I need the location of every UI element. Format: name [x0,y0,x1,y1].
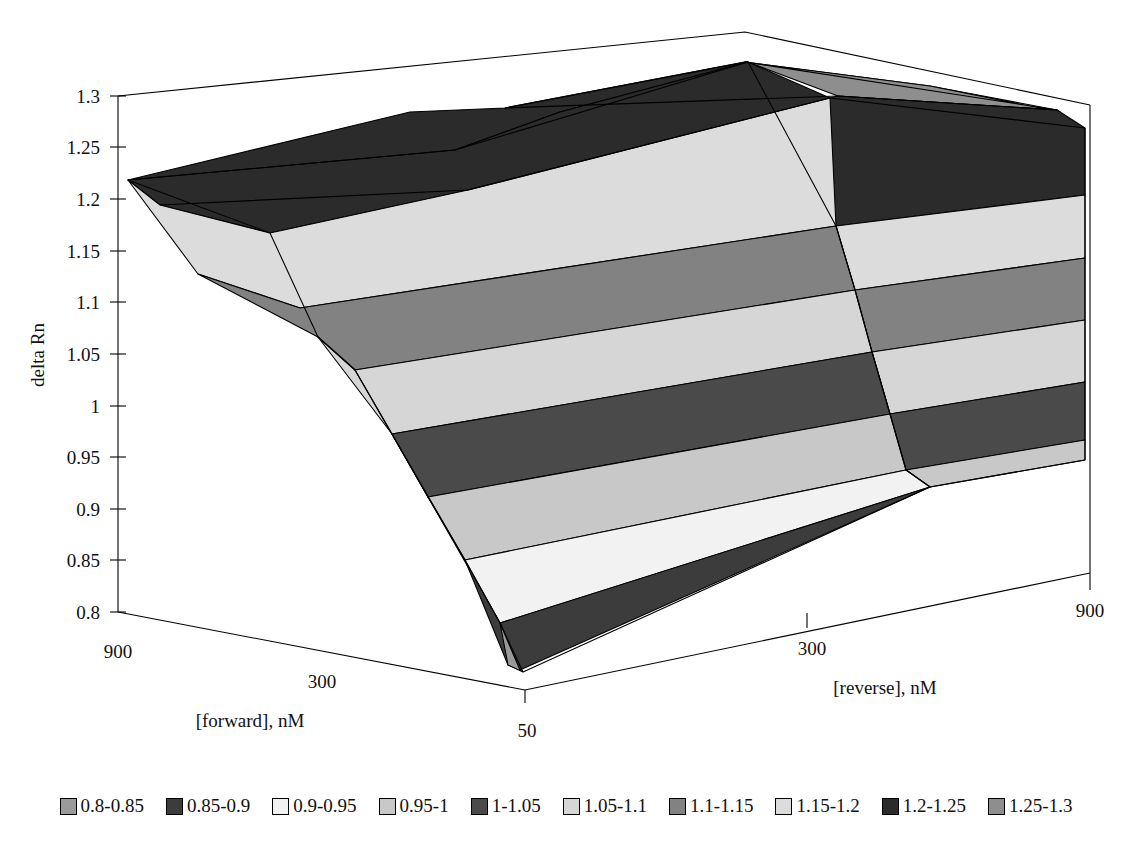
z-tick-label: 1.3 [76,86,100,107]
legend-swatch [471,798,488,815]
legend-item[interactable]: 1.2-1.25 [882,795,966,817]
legend-label: 1.1-1.15 [690,795,753,817]
z-tick-label: 0.95 [67,447,100,468]
z-axis-tick-labels: 1.3 1.25 1.2 1.15 1.1 1.05 1 0.95 0.9 0.… [67,86,100,623]
legend-swatch [272,798,289,815]
y-axis-title: [reverse], nM [833,677,937,698]
legend-swatch [563,798,580,815]
z-tick-label: 1 [91,396,101,417]
z-tick-label: 0.9 [76,499,100,520]
chart-legend: 0.8-0.85 0.85-0.9 0.9-0.95 0.95-1 1-1.05… [0,786,1132,826]
z-tick-label: 0.85 [67,550,100,571]
x-axis-title: [forward], nM [196,710,305,731]
legend-label: 1-1.05 [492,795,541,817]
legend-label: 0.8-0.85 [81,795,144,817]
surface-mesh [128,62,1085,672]
legend-item[interactable]: 1.25-1.3 [988,795,1072,817]
x-tick-label: 900 [104,641,133,662]
legend-item[interactable]: 0.9-0.95 [272,795,356,817]
legend-label: 1.25-1.3 [1009,795,1072,817]
z-tick-label: 1.05 [67,344,100,365]
z-tick-label: 0.8 [76,602,100,623]
y-axis-tick-labels: 300 900 [798,600,1105,659]
legend-label: 1.05-1.1 [584,795,647,817]
x-tick-label: 300 [308,671,337,692]
legend-label: 0.9-0.95 [293,795,356,817]
legend-item[interactable]: 0.85-0.9 [166,795,250,817]
legend-item[interactable]: 1.1-1.15 [669,795,753,817]
legend-item[interactable]: 1-1.05 [471,795,541,817]
z-tick-label: 1.15 [67,241,100,262]
legend-label: 1.15-1.2 [796,795,859,817]
legend-item[interactable]: 0.95-1 [379,795,449,817]
legend-swatch [988,798,1005,815]
legend-item[interactable]: 1.05-1.1 [563,795,647,817]
x-tick-label: 50 [518,720,537,741]
x-axis-tick-labels: 900 300 50 [104,641,537,741]
legend-swatch [379,798,396,815]
legend-label: 0.85-0.9 [187,795,250,817]
surface-chart-figure: 1.3 1.25 1.2 1.15 1.1 1.05 1 0.95 0.9 0.… [0,0,1132,852]
legend-swatch [775,798,792,815]
z-tick-label: 1.2 [76,189,100,210]
surface-plot-canvas: 1.3 1.25 1.2 1.15 1.1 1.05 1 0.95 0.9 0.… [0,0,1132,852]
z-axis-title: delta Rn [27,323,48,387]
z-tick-label: 1.1 [76,292,100,313]
legend-item[interactable]: 1.15-1.2 [775,795,859,817]
legend-item[interactable]: 0.8-0.85 [60,795,144,817]
legend-swatch [669,798,686,815]
legend-label: 0.95-1 [400,795,449,817]
legend-swatch [166,798,183,815]
legend-swatch [882,798,899,815]
z-tick-label: 1.25 [67,137,100,158]
legend-swatch [60,798,77,815]
legend-label: 1.2-1.25 [903,795,966,817]
y-tick-label: 300 [798,638,827,659]
y-tick-label: 900 [1076,600,1105,621]
